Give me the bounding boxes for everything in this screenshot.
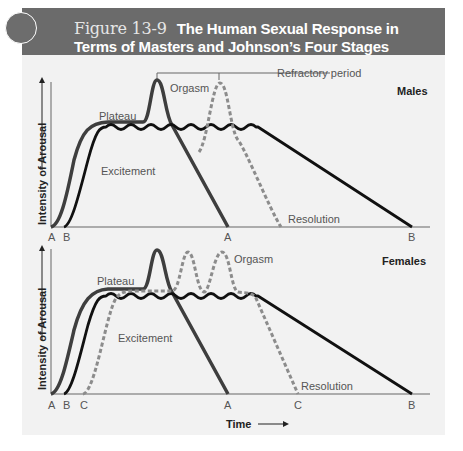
females-plateau-label: Plateau [97, 275, 134, 287]
females-tick-b: B [63, 399, 70, 411]
females-tick-a-end: A [224, 399, 232, 411]
males-curve-dashed [199, 83, 281, 227]
females-orgasm-label: Orgasm [234, 253, 273, 265]
males-chart: Intensity of Arousal Plateau Orgasm Refr… [36, 67, 430, 243]
males-y-label: Intensity of Arousal [36, 123, 48, 225]
x-axis-label: Time [226, 418, 251, 430]
males-curve-a [51, 80, 228, 227]
females-y-label: Intensity of Arousal [36, 288, 48, 390]
males-title: Males [397, 85, 428, 97]
males-orgasm-label: Orgasm [170, 82, 209, 94]
females-chart: Intensity of Arousal Plateau Orgasm Fema… [36, 248, 430, 430]
females-curve-b [64, 294, 412, 395]
females-title: Females [382, 255, 426, 267]
females-excitement-label: Excitement [118, 332, 172, 344]
males-plateau-label: Plateau [99, 110, 136, 122]
refractory-label: Refractory period [277, 67, 361, 79]
males-tick-a-end: A [224, 231, 232, 243]
females-tick-a: A [48, 399, 56, 411]
males-tick-a: A [48, 231, 56, 243]
males-excitement-label: Excitement [101, 165, 155, 177]
females-resolution-label: Resolution [301, 380, 353, 392]
females-tick-c: C [80, 399, 88, 411]
females-tick-c-end: C [294, 399, 302, 411]
males-tick-b-end: B [408, 231, 415, 243]
females-curve-a [51, 250, 228, 394]
males-tick-b: B [63, 231, 70, 243]
females-tick-b-end: B [408, 399, 415, 411]
males-resolution-label: Resolution [288, 213, 340, 225]
chart-svg: Intensity of Arousal Plateau Orgasm Refr… [0, 0, 463, 451]
